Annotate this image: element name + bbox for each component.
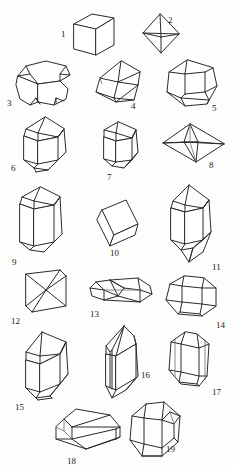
figure-11-doubly-terminated-prism (163, 182, 219, 266)
figure-label-15: 15 (15, 403, 24, 412)
figure-label-7: 7 (107, 173, 112, 182)
figure-label-18: 18 (67, 457, 76, 466)
figure-1-cube (70, 10, 118, 58)
figure-12-triangular-prism (20, 268, 70, 316)
figure-4-rhombic-dodecahedron (92, 58, 144, 108)
figure-label-1: 1 (61, 30, 66, 39)
figure-label-12: 12 (11, 317, 20, 326)
figure-14-tabular-hexagonal-form (162, 272, 222, 322)
figure-label-16: 16 (141, 371, 150, 380)
figure-13-elongated-bladed-crystal (84, 272, 156, 308)
figure-16-twinned-prism-pair (98, 324, 146, 402)
figure-label-13: 13 (90, 310, 99, 319)
figure-19-beveled-prism (126, 398, 188, 464)
figure-6-hexagonal-prism-pyramid (18, 114, 72, 176)
figure-label-8: 8 (209, 161, 214, 170)
figure-label-11: 11 (212, 263, 221, 272)
figure-9-long-hexagonal-prism (14, 184, 70, 260)
figure-label-14: 14 (216, 321, 225, 330)
figure-7-short-hexagonal-prism (96, 118, 144, 174)
figure-label-6: 6 (11, 164, 16, 173)
figure-label-17: 17 (212, 388, 221, 397)
figure-label-3: 3 (7, 99, 12, 108)
figure-label-19: 19 (166, 445, 175, 454)
figure-label-9: 9 (12, 258, 17, 267)
figure-2-octahedron (139, 12, 183, 56)
figure-label-4: 4 (131, 102, 136, 111)
figure-17-flattened-tabular-prism (163, 330, 219, 392)
figure-8-flattened-bipyramid (160, 120, 228, 168)
figure-3-truncated-cube (12, 57, 74, 109)
figure-label-10: 10 (110, 249, 119, 258)
crystal-forms-plate: 1 2 3 (0, 0, 234, 467)
figure-10-rhombohedron (86, 196, 142, 250)
figure-label-2: 2 (168, 16, 173, 25)
figure-18-orthorhombic-brick (50, 405, 124, 455)
figure-label-5: 5 (212, 104, 217, 113)
figure-15-monoclinic-prism (20, 330, 80, 404)
